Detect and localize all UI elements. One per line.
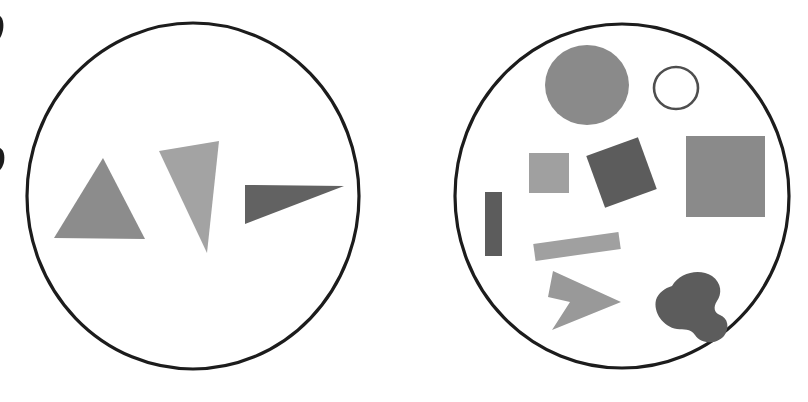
square-large-medium-gray bbox=[686, 136, 765, 217]
figure-canvas bbox=[0, 0, 808, 402]
square-small-light-gray bbox=[529, 153, 569, 193]
figure-svg bbox=[0, 0, 808, 402]
rect-vertical-thin-dark-gray bbox=[485, 192, 502, 256]
filled-circle-medium-gray bbox=[545, 45, 629, 125]
